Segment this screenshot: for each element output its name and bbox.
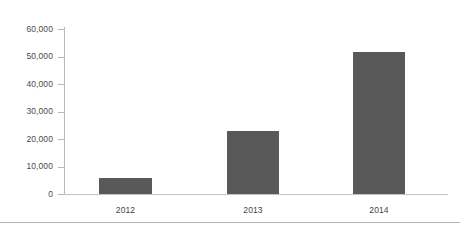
y-axis-tick-label: 0 (0, 189, 53, 199)
y-axis-tick-label: 30,000 (0, 106, 53, 116)
bar-2014 (353, 52, 405, 194)
y-axis-tick-label: 10,000 (0, 161, 53, 171)
x-axis-category-label: 2014 (349, 205, 409, 215)
x-axis-category-label: 2013 (223, 205, 283, 215)
y-axis-tick-label: 40,000 (0, 79, 53, 89)
y-axis-tick-label: 60,000 (0, 24, 53, 34)
bar-2013 (227, 131, 279, 194)
footer-divider (0, 222, 460, 223)
y-axis-tick-label: 20,000 (0, 134, 53, 144)
bar-chart: 010,00020,00030,00040,00050,00060,000 20… (0, 0, 460, 230)
x-axis-baseline (64, 194, 448, 195)
bar-2012 (99, 178, 152, 194)
y-axis-tick-label: 50,000 (0, 51, 53, 61)
plot-area (64, 29, 446, 194)
x-axis-category-label: 2012 (96, 205, 156, 215)
